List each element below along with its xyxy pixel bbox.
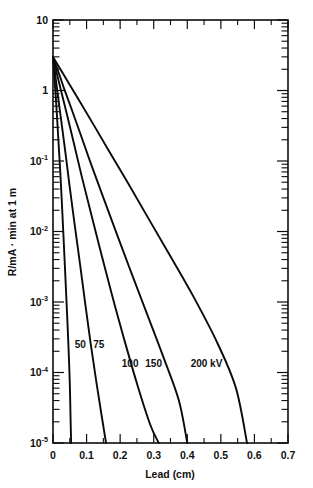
- x-tick-label: 0.5: [214, 449, 229, 461]
- curve-labels: 5075100150200 kV: [75, 339, 223, 369]
- y-tick-label: 10-1: [30, 153, 48, 167]
- chart-figure: 10110-110-210-310-410-5 00.10.20.30.40.5…: [0, 0, 313, 488]
- curve-label-100: 100: [122, 358, 139, 369]
- y-tick-label: 10-3: [30, 294, 48, 308]
- y-tick-label: 10: [36, 14, 48, 26]
- y-tick-label: 1: [42, 84, 48, 96]
- x-tick-label: 0.3: [146, 449, 161, 461]
- x-tick-label: 0.7: [281, 449, 296, 461]
- x-axis-ticks: [53, 20, 288, 443]
- curve-75: [53, 57, 106, 443]
- x-axis-title: Lead (cm): [145, 468, 195, 480]
- curve-label-75: 75: [93, 339, 105, 350]
- curve-label-50: 50: [75, 339, 87, 350]
- y-tick-label: 10-2: [30, 224, 48, 238]
- attenuation-chart: 10110-110-210-310-410-5 00.10.20.30.40.5…: [0, 0, 313, 488]
- x-axis-tick-labels: 00.10.20.30.40.50.60.7: [50, 449, 295, 461]
- y-axis-ticks: [53, 20, 288, 443]
- curve-100: [53, 57, 159, 443]
- curve-50: [53, 57, 71, 443]
- x-tick-label: 0.6: [247, 449, 262, 461]
- y-axis-title: R/mA · min at 1 m: [6, 188, 18, 276]
- plot-frame: [53, 20, 288, 443]
- data-curves: [53, 57, 247, 443]
- curve-label-150: 150: [145, 358, 162, 369]
- x-tick-label: 0.1: [79, 449, 94, 461]
- curve-label-200-kv: 200 kV: [191, 358, 223, 369]
- x-tick-label: 0.2: [113, 449, 128, 461]
- y-tick-label: 10-4: [30, 365, 48, 379]
- x-tick-label: 0.4: [180, 449, 195, 461]
- x-tick-label: 0: [50, 449, 56, 461]
- y-tick-label: 10-5: [30, 435, 48, 449]
- y-axis-tick-labels: 10110-110-210-310-410-5: [30, 14, 48, 449]
- curve-200-kv: [53, 57, 247, 443]
